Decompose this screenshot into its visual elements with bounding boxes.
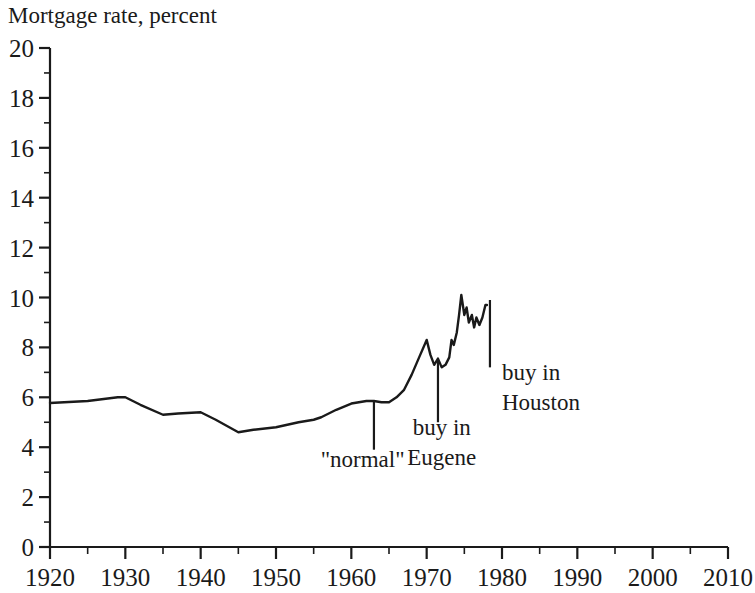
data-series-line [50, 295, 487, 432]
y-tick-label: 16 [9, 135, 34, 162]
annotation-label-buy-in-eugene: Eugene [407, 445, 476, 470]
y-tick-label: 12 [9, 235, 34, 262]
y-tick-label: 18 [9, 85, 34, 112]
chart-plot-area: 02468101214161820 1920193019401950196019… [0, 0, 755, 593]
x-tick-label: 1940 [176, 564, 226, 591]
y-tick-label: 4 [22, 434, 35, 461]
annotation-label-buy-in-eugene: buy in [413, 415, 472, 440]
annotation-label-buy-in-houston: buy in [502, 360, 561, 385]
chart-figure: Mortgage rate, percent 02468101214161820… [0, 0, 755, 593]
x-tick-label: 1980 [477, 564, 527, 591]
y-tick-label: 20 [9, 35, 34, 62]
x-tick-label: 1970 [402, 564, 452, 591]
y-tick-label: 2 [22, 484, 35, 511]
x-tick-label: 1990 [552, 564, 602, 591]
y-tick-label: 6 [22, 384, 35, 411]
x-tick-label: 2010 [703, 564, 753, 591]
x-tick-label: 2000 [628, 564, 678, 591]
annotation-label-buy-in-houston: Houston [502, 390, 580, 415]
y-tick-label: 8 [22, 334, 35, 361]
x-tick-label: 1920 [25, 564, 75, 591]
annotation-label-normal: "normal" [321, 447, 405, 472]
x-tick-label: 1960 [326, 564, 376, 591]
y-tick-label: 10 [9, 285, 34, 312]
x-tick-label: 1930 [100, 564, 150, 591]
y-tick-label: 0 [22, 534, 35, 561]
y-axis-tick-labels: 02468101214161820 [9, 35, 35, 561]
x-axis-tick-labels: 1920193019401950196019701980199020002010 [25, 564, 753, 591]
x-tick-label: 1950 [251, 564, 301, 591]
y-tick-label: 14 [9, 185, 35, 212]
annotation-labels: "normal"buy inEugenebuy inHouston [321, 360, 581, 472]
